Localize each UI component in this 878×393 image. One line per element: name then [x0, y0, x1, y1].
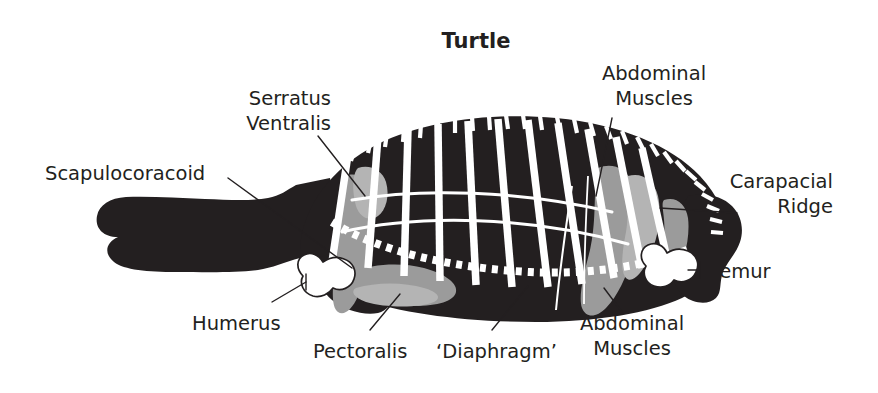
label-diaphragm: ‘Diaphragm’ [436, 340, 557, 363]
carapace-tick [557, 117, 560, 131]
label-abdominal-muscles-top-line1: Abdominal [602, 62, 706, 85]
carapace-tick [420, 124, 421, 138]
label-serratus-ventralis-line1: Serratus [249, 87, 331, 110]
carapace-tick [710, 219, 722, 222]
rib [404, 129, 408, 276]
leader-humerus [272, 282, 306, 302]
label-carapacial-ridge: Carapacial Ridge [730, 170, 833, 218]
carapace-tick [385, 133, 387, 147]
carapace-tick [506, 115, 508, 129]
label-carapacial-ridge-line1: Carapacial [730, 170, 833, 193]
turtle-diagram-canvas: Turtle [0, 0, 878, 393]
carapace-tick [540, 116, 542, 130]
label-humerus: Humerus [192, 312, 281, 335]
label-femur: Femur [709, 260, 772, 283]
carapace-tick [489, 116, 490, 130]
label-abdominal-muscles-top: Abdominal Muscles [602, 62, 706, 110]
carapace-tick [523, 115, 525, 129]
carapace-tick [368, 139, 371, 153]
label-abdominal-muscles-bottom-line1: Abdominal [580, 312, 684, 335]
turtle-anatomy-figure: Turtle [0, 0, 878, 393]
label-pectoralis: Pectoralis [313, 340, 407, 363]
carapace-tick [403, 128, 404, 142]
label-abdominal-muscles-bottom: Abdominal Muscles [580, 312, 684, 360]
label-serratus-ventralis-line2: Ventralis [246, 112, 331, 135]
label-scapulocoracoid: Scapulocoracoid [45, 162, 205, 185]
carapace-tick [472, 117, 473, 131]
carapace-tick [711, 232, 723, 233]
label-abdominal-muscles-bottom-line2: Muscles [593, 337, 671, 360]
label-serratus-ventralis: Serratus Ventralis [246, 87, 331, 135]
carapace-tick [574, 119, 577, 133]
figure-title: Turtle [442, 29, 511, 53]
label-carapacial-ridge-line2: Ridge [777, 195, 833, 218]
label-abdominal-muscles-top-line2: Muscles [615, 87, 693, 110]
